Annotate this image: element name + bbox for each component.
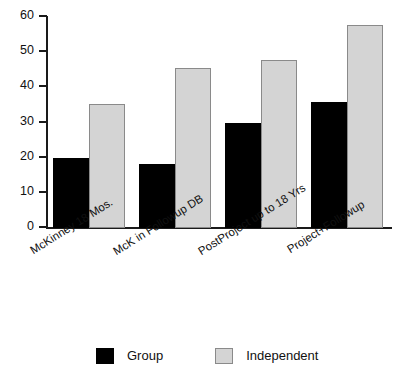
y-axis-tick-label: 0 — [27, 218, 34, 234]
y-axis-tick: 30 — [39, 121, 47, 123]
bar-chart: 0102030405060 McKinney 18 Mos.McK in Fol… — [0, 0, 403, 375]
legend-label: Independent — [246, 348, 318, 364]
legend-entry-group: Group — [96, 348, 163, 364]
y-axis-tick-label: 20 — [20, 148, 34, 164]
y-axis-tick-label: 60 — [20, 7, 34, 23]
plot-area: 0102030405060 — [47, 17, 391, 228]
chart-legend: GroupIndependent — [96, 348, 318, 364]
y-axis-tick-label: 30 — [20, 113, 34, 129]
y-axis-tick: 60 — [39, 15, 47, 17]
gray-square-swatch — [215, 348, 233, 364]
y-axis-tick-label: 40 — [20, 77, 34, 93]
y-axis-tick: 0 — [39, 226, 47, 228]
legend-label: Group — [127, 348, 163, 364]
y-axis-tick-label: 50 — [20, 42, 34, 58]
bar-independent-4 — [347, 25, 383, 228]
y-axis-tick: 10 — [39, 191, 47, 193]
y-axis-tick: 40 — [39, 85, 47, 87]
black-square-swatch — [96, 348, 114, 364]
y-axis-tick: 20 — [39, 156, 47, 158]
y-axis-tick-label: 10 — [20, 183, 34, 199]
legend-entry-independent: Independent — [215, 348, 318, 364]
y-axis-tick: 50 — [39, 50, 47, 52]
